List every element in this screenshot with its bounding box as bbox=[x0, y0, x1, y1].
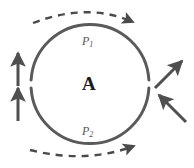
right-arrow-inward bbox=[159, 95, 186, 122]
figure-container: A P1 P2 bbox=[0, 0, 194, 168]
pressure-bottom-subscript: 2 bbox=[89, 130, 93, 139]
right-arrow-group bbox=[155, 61, 186, 122]
dashed-arc-top bbox=[33, 12, 133, 23]
right-arrow-outward bbox=[155, 61, 182, 88]
boundary-arc-upper bbox=[31, 24, 149, 80]
dashed-arc-bottom bbox=[30, 146, 134, 156]
diagram-canvas bbox=[0, 0, 194, 168]
pressure-top-subscript: 1 bbox=[89, 40, 93, 49]
region-label: A bbox=[82, 74, 96, 93]
pressure-label-top: P1 bbox=[82, 35, 93, 47]
pressure-label-bottom: P2 bbox=[82, 125, 93, 137]
